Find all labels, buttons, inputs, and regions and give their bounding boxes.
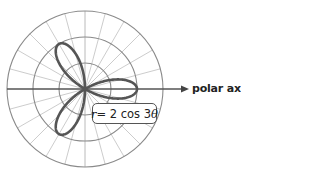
equation-middle: = 2 cos 3 bbox=[96, 107, 151, 121]
equation-theta: θ bbox=[151, 107, 158, 121]
polar-axis-arrowhead bbox=[181, 86, 189, 93]
polar-axis-label: polar axis bbox=[192, 82, 241, 95]
equation-label: r = 2 cos 3θ bbox=[92, 103, 157, 124]
